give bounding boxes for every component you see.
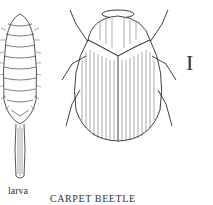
carpet-beetle-illustration [0, 0, 213, 205]
illustration-title: CARPET BEETLE [50, 193, 136, 204]
beetle-drawing [62, 10, 176, 141]
larva-drawing [0, 14, 41, 178]
plate-mark: I [186, 50, 193, 76]
larva-label: larva [8, 185, 28, 196]
